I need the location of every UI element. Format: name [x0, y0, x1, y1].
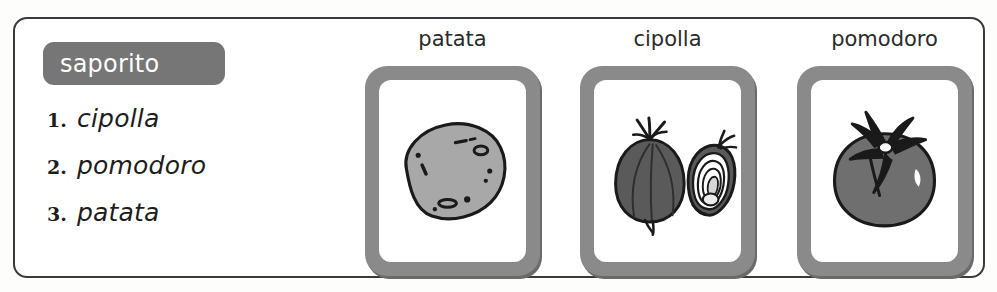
- list-item-number: 2.: [47, 156, 77, 178]
- list-item[interactable]: 3. patata: [47, 198, 317, 245]
- category-badge: saporito: [43, 42, 225, 85]
- list-item[interactable]: 1. cipolla: [47, 104, 317, 151]
- category-badge-label: saporito: [43, 52, 159, 76]
- picture-card-inner: [594, 80, 741, 262]
- picture-card[interactable]: [797, 66, 972, 276]
- picture-card-inner: [811, 80, 958, 262]
- list-item-number: 1.: [47, 109, 77, 131]
- tomato-illustration: [811, 80, 958, 262]
- picture-card[interactable]: [580, 66, 755, 276]
- list-item[interactable]: 2. pomodoro: [47, 151, 317, 198]
- exercise-frame: saporito 1. cipolla 2. pomodoro 3. patat…: [13, 17, 985, 278]
- picture-item-patata[interactable]: patata: [345, 24, 560, 276]
- picture-label: pomodoro: [777, 24, 992, 54]
- picture-card-inner: [379, 80, 526, 262]
- list-item-word: patata: [77, 198, 160, 227]
- picture-item-cipolla[interactable]: cipolla: [560, 24, 775, 276]
- list-item-word: pomodoro: [77, 151, 206, 180]
- word-panel: saporito 1. cipolla 2. pomodoro 3. patat…: [43, 42, 323, 257]
- list-item-number: 3.: [47, 203, 77, 225]
- onion-illustration: [594, 80, 741, 262]
- picture-card[interactable]: [365, 66, 540, 276]
- potato-illustration: [379, 80, 526, 262]
- picture-row: patata: [345, 24, 997, 289]
- answer-list: 1. cipolla 2. pomodoro 3. patata: [47, 104, 317, 245]
- picture-item-pomodoro[interactable]: pomodoro: [777, 24, 992, 276]
- picture-label: patata: [345, 24, 560, 54]
- picture-label: cipolla: [560, 24, 775, 54]
- list-item-word: cipolla: [77, 104, 159, 133]
